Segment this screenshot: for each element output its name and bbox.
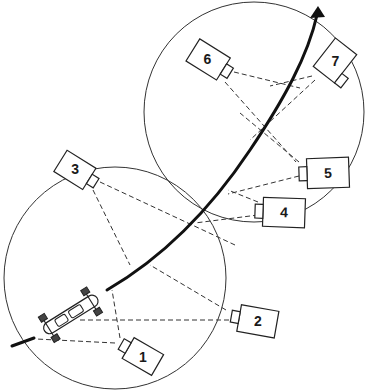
camera-3: 3 bbox=[54, 150, 103, 193]
camera-label: 3 bbox=[71, 161, 79, 177]
camera-1: 1 bbox=[115, 334, 163, 376]
arrow-head-icon bbox=[310, 6, 325, 18]
camera-4: 4 bbox=[254, 197, 305, 228]
camera-label: 4 bbox=[280, 204, 289, 220]
camera-5: 5 bbox=[298, 157, 349, 189]
camera-7: 7 bbox=[313, 38, 363, 88]
camera-label: 6 bbox=[203, 51, 211, 67]
camera-label: 2 bbox=[254, 313, 262, 329]
camera-6: 6 bbox=[186, 39, 237, 84]
upper-coverage-circle bbox=[144, 2, 364, 222]
camera-2: 2 bbox=[229, 303, 279, 338]
camera-label: 5 bbox=[324, 165, 333, 181]
camera-coverage-diagram: 1 2 3 4 5 6 7 bbox=[0, 0, 366, 390]
lower-coverage-circle bbox=[4, 167, 226, 389]
race-car-trajectory bbox=[12, 6, 325, 346]
camera-label: 1 bbox=[139, 349, 147, 365]
race-car bbox=[37, 285, 105, 343]
camera-label: 7 bbox=[331, 53, 339, 69]
